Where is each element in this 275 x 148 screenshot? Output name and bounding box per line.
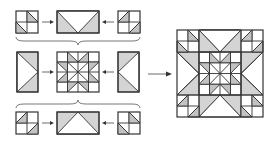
corner-four-patch-top-left bbox=[16, 11, 38, 33]
flying-geese-top bbox=[57, 11, 99, 33]
arrow-right-icon bbox=[42, 121, 54, 125]
corner-four-patch-bottom-right bbox=[118, 112, 140, 134]
arrow-left-icon bbox=[102, 121, 114, 125]
finished-block bbox=[177, 30, 263, 117]
corner-four-patch-bottom-left bbox=[16, 112, 38, 134]
arrow-right-icon bbox=[42, 20, 54, 24]
join-brace-top bbox=[16, 37, 140, 45]
arrow-left-icon bbox=[102, 20, 114, 24]
flying-geese-bottom bbox=[57, 112, 99, 134]
arrow-left-icon bbox=[102, 70, 114, 74]
flying-geese-left bbox=[17, 52, 38, 92]
arrow-to-finished-block-icon bbox=[148, 72, 172, 77]
flying-geese-right bbox=[118, 52, 139, 92]
join-brace-bottom bbox=[16, 100, 140, 108]
arrow-right-icon bbox=[42, 70, 54, 74]
corner-four-patch-top-right bbox=[118, 11, 140, 33]
quilt-assembly-diagram bbox=[0, 0, 275, 148]
center-star bbox=[57, 52, 99, 92]
